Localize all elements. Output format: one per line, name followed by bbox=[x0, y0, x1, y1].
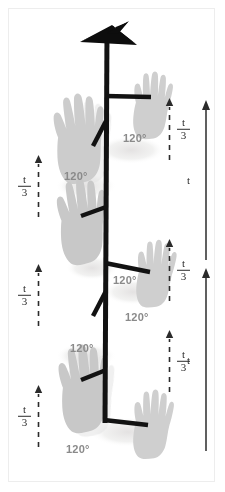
left-tick-1: t 3 bbox=[18, 155, 52, 217]
up-arrow-dashed-icon bbox=[34, 155, 43, 217]
right-tick-1: t 3 bbox=[165, 98, 199, 160]
up-arrow-dashed-icon bbox=[34, 385, 43, 447]
right-tick-2-fraction: t 3 bbox=[177, 258, 190, 282]
angle-label-3: 120° bbox=[113, 275, 137, 286]
left-tick-1-numerator: t bbox=[18, 174, 31, 185]
left-tick-2-numerator: t bbox=[18, 283, 31, 294]
left-tick-1-fraction: t 3 bbox=[18, 174, 31, 198]
up-arrow-solid-icon bbox=[196, 268, 216, 451]
right-tick-2: t 3 bbox=[165, 239, 199, 301]
left-tick-2-denominator: 3 bbox=[18, 296, 31, 307]
left-tick-3: t 3 bbox=[18, 385, 52, 447]
right-tick-2-denominator: 3 bbox=[177, 271, 190, 282]
left-tick-3-numerator: t bbox=[18, 404, 31, 415]
arm-right-1 bbox=[105, 96, 151, 97]
right-tick-1-fraction: t 3 bbox=[177, 117, 190, 141]
angle-label-6: 120° bbox=[66, 444, 90, 455]
up-arrow-dashed-icon bbox=[165, 98, 174, 160]
long-arrow-t-1-label: t bbox=[187, 174, 190, 186]
up-arrow-dashed-icon bbox=[165, 330, 174, 392]
right-tick-2-numerator: t bbox=[177, 258, 190, 269]
angle-label-2: 120° bbox=[64, 171, 88, 182]
angle-label-1: 120° bbox=[123, 133, 147, 144]
right-tick-1-denominator: 3 bbox=[177, 130, 190, 141]
right-tick-3: t 3 bbox=[165, 330, 199, 392]
left-tick-2: t 3 bbox=[18, 264, 52, 326]
vertical-pole bbox=[105, 30, 107, 423]
left-tick-2-fraction: t 3 bbox=[18, 283, 31, 307]
left-tick-3-denominator: 3 bbox=[18, 417, 31, 428]
left-tick-3-fraction: t 3 bbox=[18, 404, 31, 428]
angle-label-4: 120° bbox=[125, 312, 149, 323]
long-arrow-t-2: t bbox=[196, 268, 216, 451]
pole-finial-icon bbox=[80, 21, 137, 45]
long-arrow-t-1: t bbox=[196, 100, 216, 260]
left-tick-1-denominator: 3 bbox=[18, 187, 31, 198]
right-tick-1-numerator: t bbox=[177, 117, 190, 128]
angle-label-5: 120° bbox=[70, 343, 94, 354]
up-arrow-dashed-icon bbox=[165, 239, 174, 301]
up-arrow-dashed-icon bbox=[34, 264, 43, 326]
up-arrow-solid-icon bbox=[196, 100, 216, 260]
rotation-sequence-figure: 120° 120° 120° 120° 120° 120° t 3 t 3 t bbox=[0, 0, 225, 492]
long-arrow-t-2-label: t bbox=[187, 354, 190, 366]
